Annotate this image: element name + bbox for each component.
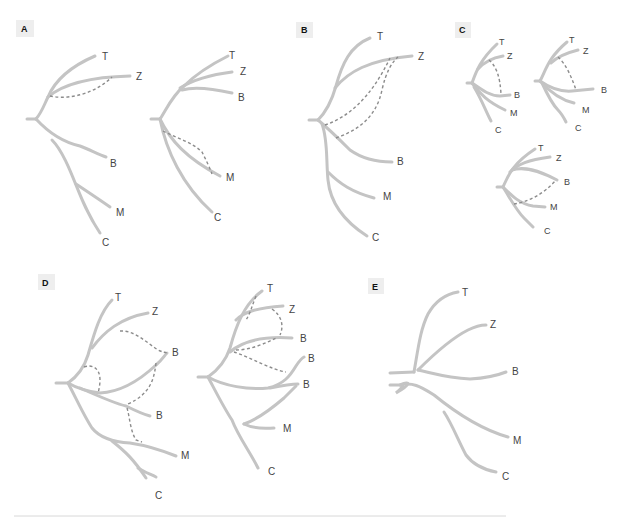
leaf-label-z: Z (152, 306, 158, 317)
leaf-label-b: B (601, 85, 607, 95)
leaf-label-t: T (538, 143, 544, 153)
reticulation-edge (489, 60, 501, 94)
leaf-label-t: T (462, 287, 468, 298)
leaf-label-m: M (181, 450, 189, 461)
leaf-label-m: M (383, 191, 391, 202)
panel-c: C T Z B M C T Z B M (455, 22, 607, 236)
leaf-label-z: Z (418, 51, 424, 62)
leaf-label-t: T (102, 51, 108, 62)
panel-c-tree-1: T Z B M C (467, 37, 520, 135)
reticulation-edge-2 (272, 309, 282, 335)
leaf-label-b: B (514, 90, 520, 100)
leaf-label-b: B (564, 177, 570, 187)
panel-e-tree: T Z B M C (390, 287, 521, 482)
leaf-label-c: C (372, 232, 379, 243)
leaf-label-b2: B (156, 410, 163, 421)
leaf-label-z: Z (583, 46, 589, 56)
leaf-label-z: Z (507, 51, 513, 61)
leaf-label-m: M (510, 108, 518, 118)
reticulation-edge (558, 57, 576, 90)
leaf-label-z: Z (136, 71, 142, 82)
leaf-label-m: M (550, 202, 558, 212)
leaf-label-b1: B (300, 333, 307, 344)
panel-a-tree-1: T Z B M C (27, 51, 142, 248)
panel-c-tree-3: T Z B M C (497, 143, 570, 236)
leaf-label-b: B (238, 92, 245, 103)
panel-d-tag: D (42, 278, 49, 288)
panel-d: D T Z B B M C (38, 274, 315, 501)
panel-c-tag: C (459, 25, 466, 35)
leaf-label-c: C (502, 471, 509, 482)
panel-e-tag: E (372, 282, 378, 292)
leaf-label-c: C (155, 490, 162, 501)
leaf-label-b1: B (172, 347, 179, 358)
leaf-label-c: C (268, 466, 275, 477)
leaf-label-m: M (513, 435, 521, 446)
leaf-label-t: T (377, 31, 383, 42)
leaf-label-t: T (115, 292, 121, 303)
leaf-label-m: M (582, 105, 590, 115)
reticulation-edge-1 (120, 331, 167, 353)
leaf-label-b: B (397, 156, 404, 167)
leaf-label-z: Z (556, 153, 562, 163)
leaf-label-t: T (267, 283, 273, 294)
panel-b-tree: T Z B M C (309, 31, 424, 243)
leaf-label-t: T (229, 50, 235, 61)
panel-d-tree-1: T Z B B M C (56, 292, 189, 501)
reticulation-edge-4 (234, 352, 286, 372)
leaf-label-b2: B (308, 353, 315, 364)
leaf-label-c: C (544, 226, 551, 236)
panel-c-tree-2: T Z B M C (535, 35, 607, 133)
leaf-label-c: C (575, 123, 582, 133)
leaf-label-m: M (283, 423, 291, 434)
leaf-label-b3: B (303, 379, 310, 390)
panel-a-tag: A (21, 24, 28, 34)
leaf-label-c: C (102, 237, 109, 248)
panel-b-tag: B (301, 25, 308, 35)
leaf-label-z: Z (240, 66, 246, 77)
leaf-label-t: T (569, 35, 575, 45)
leaf-label-t: T (499, 37, 505, 47)
leaf-label-m: M (226, 172, 234, 183)
leaf-label-m: M (116, 207, 124, 218)
phylogenetic-network-figure: A T Z B M C T Z B M (0, 0, 629, 524)
leaf-label-z: Z (490, 319, 496, 330)
panel-b: B T Z B M C (296, 22, 424, 243)
leaf-label-b: B (512, 366, 519, 377)
leaf-label-z: Z (289, 304, 295, 315)
panel-e: E T Z B M C (368, 278, 521, 482)
leaf-label-c: C (495, 125, 502, 135)
panel-a-tree-2: T Z B M C (151, 50, 246, 223)
leaf-label-b: B (110, 158, 117, 169)
leaf-label-c: C (214, 212, 221, 223)
panel-d-tree-2: T Z B B B M C (198, 283, 315, 477)
reticulation-edge-2 (336, 57, 398, 138)
panel-a: A T Z B M C T Z B M (16, 20, 246, 248)
